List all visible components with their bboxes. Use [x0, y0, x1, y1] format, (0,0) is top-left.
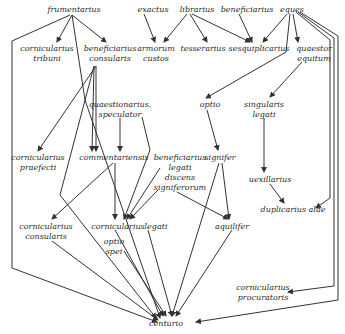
node-librarius: librarius: [180, 5, 214, 15]
node-tesserarius: tesserarius: [180, 44, 225, 54]
edge-legati-to-centurio: [148, 230, 172, 316]
node-exactus: exactus: [138, 5, 169, 15]
node-legati: legati: [145, 222, 168, 232]
node-frumentarius: frumentarius: [47, 5, 100, 15]
node-quaestionarius-speculator: quaestionarius, speculator: [89, 100, 152, 120]
node-cornicularius: cornicularius: [91, 222, 144, 232]
node-duplicarius-alae: duplicarius alae: [261, 205, 326, 215]
node-quaestor-equitum: quaestor equitum: [296, 44, 332, 64]
edge-eques-to-sesquiplicarius: [263, 14, 287, 42]
edge-beneficiarius-legati-discens-to-cornicularius-2: [130, 190, 158, 219]
node-centurio: centurio: [149, 319, 183, 329]
node-cornicularius-tribuni: cornicularius tribuni: [20, 44, 73, 64]
edge-signifer-to-aquilifer: [222, 163, 229, 219]
node-cornicularius-procuratoris: cornicularius procuratoris: [236, 283, 289, 303]
edge-beneficiarius-consularis-to-cornicularius-praefecti: [38, 66, 96, 151]
node-beneficiarius-legati-discens: beneficiarius legati discens signiferoru…: [154, 153, 207, 193]
node-optio: optio: [200, 100, 221, 110]
edge-frumentarius-to-cornicularius-tribuni: [57, 15, 72, 42]
node-sesquiplicarius: sesquiplicarius: [229, 44, 290, 54]
node-aquilifer: aquilifer: [215, 222, 249, 232]
node-uexillarius: uexillarius: [249, 175, 291, 185]
node-optio-spei: optio spei: [104, 237, 125, 257]
node-cornicularius-praefecti: cornicularius praefecti: [11, 153, 64, 173]
edge-exactus-to-armorum-custos: [144, 14, 155, 42]
node-cornicularius-consularis: cornicularius consularis: [19, 222, 72, 242]
edge-eques-to-duplicarius-alae: [296, 12, 330, 208]
edge-optio-to-signifer: [207, 110, 218, 150]
edge-beneficiarius-legati-discens-to-aquilifer: [177, 192, 228, 219]
node-beneficiarius-consularis: beneficiarius consularis: [84, 44, 137, 64]
edge-uexillarius-to-duplicarius-alae: [270, 184, 284, 203]
edge-eques-to-quaestor-equitum: [293, 14, 298, 42]
node-beneficiarius: beneficiarius: [221, 5, 274, 15]
node-eques: eques: [280, 5, 304, 15]
edge-quaestor-equitum-to-singularis-legati: [270, 62, 302, 97]
edge-librarius-to-tesserarius: [190, 14, 207, 42]
node-signifer: signifer: [204, 153, 235, 163]
edge-librarius-to-armorum-custos: [164, 14, 187, 42]
edge-optio-spei-to-centurio: [124, 251, 166, 316]
node-singularis-legati: singularis legati: [244, 100, 284, 120]
node-armorum-custos: armorum custos: [137, 44, 175, 64]
edge-aquilifer-to-centurio: [176, 230, 232, 316]
edge-frumentarius-to-beneficiarius-consularis: [72, 15, 106, 42]
node-commentariensis: commentariensis: [79, 153, 148, 163]
career-hierarchy-diagram: frumentariusexactuslibrariusbeneficiariu…: [0, 0, 345, 334]
